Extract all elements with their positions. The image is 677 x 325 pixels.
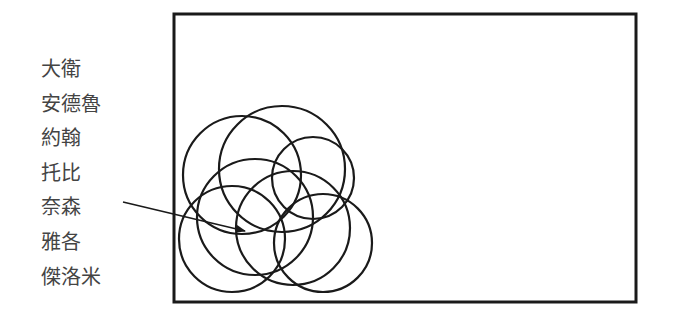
circle-group — [179, 106, 372, 292]
circle-6 — [236, 171, 350, 285]
circle-5 — [197, 159, 313, 275]
diagram-frame — [174, 14, 636, 302]
arrow-pointer — [123, 202, 245, 231]
venn-diagram — [0, 0, 677, 325]
circle-4 — [179, 186, 285, 292]
